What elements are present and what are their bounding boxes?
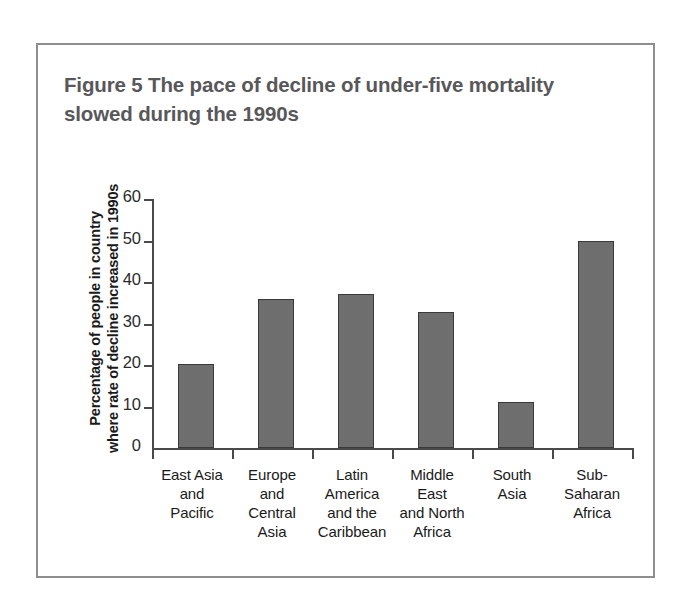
bar-east-asia-and-pacific[interactable] [178,364,214,448]
label-line: Caribbean [310,522,394,541]
x-axis-separator [392,450,394,459]
bar-chart: Percentage of people in country where ra… [38,45,653,576]
label-line: Asia [232,522,312,541]
y-tick-label: 50 [123,230,141,247]
y-tick-mark [144,241,152,243]
y-tick-mark [144,407,152,409]
bar-middle-east-and-north-africa[interactable] [418,312,454,448]
label-line: Saharan [552,484,632,503]
y-tick-label: 20 [123,354,141,371]
label-line: Central [232,503,312,522]
x-axis-separator [632,450,634,459]
x-axis-separator [152,450,154,459]
y-axis-label-line-1: Percentage of people in country [86,178,104,458]
label-line: Latin [310,465,394,484]
label-line: Pacific [152,503,232,522]
x-category-label-europe-and-central-asia: Europe and Central Asia [232,465,312,541]
y-axis-label-line-2: where rate of decline increased in 1990s [104,178,122,458]
y-tick-label: 40 [123,271,141,288]
bar-sub-saharan-africa[interactable] [578,241,614,449]
label-line: Asia [472,484,552,503]
y-tick-label: 10 [123,396,141,413]
plot-area: 60 50 40 30 20 10 0 [152,199,632,448]
x-axis-separator [472,450,474,459]
label-line: Europe [232,465,312,484]
bar-latin-america-and-the-caribbean[interactable] [338,294,374,448]
figure-frame: Figure 5 The pace of decline of under-fi… [36,43,655,578]
x-category-label-east-asia-and-pacific: East Asia and Pacific [152,465,232,522]
label-line: and North [390,503,474,522]
label-line: Africa [552,503,632,522]
x-axis-separator [312,450,314,459]
y-tick-mark [144,199,152,201]
label-line: South [472,465,552,484]
label-line: and [152,484,232,503]
x-category-label-middle-east-and-north-africa: Middle East and North Africa [390,465,474,541]
y-tick-mark [144,324,152,326]
y-tick-mark [144,365,152,367]
bar-europe-and-central-asia[interactable] [258,299,294,448]
y-tick-label: 60 [123,188,141,205]
x-axis-separator [552,450,554,459]
x-category-label-sub-saharan-africa: Sub- Saharan Africa [552,465,632,522]
label-line: Middle [390,465,474,484]
bar-south-asia[interactable] [498,402,534,448]
label-line: and the [310,503,394,522]
label-line: America [310,484,394,503]
y-tick-label: 30 [123,313,141,330]
label-line: East [390,484,474,503]
x-category-label-latin-america-and-the-caribbean: Latin America and the Caribbean [310,465,394,541]
label-line: East Asia [152,465,232,484]
label-line: Africa [390,522,474,541]
label-line: Sub- [552,465,632,484]
label-line: and [232,484,312,503]
x-axis-separator [232,450,234,459]
x-category-label-south-asia: South Asia [472,465,552,503]
y-axis-line [152,199,154,450]
y-axis-label: Percentage of people in country where ra… [86,178,123,458]
y-tick-label: 0 [132,437,141,454]
y-tick-mark [144,282,152,284]
